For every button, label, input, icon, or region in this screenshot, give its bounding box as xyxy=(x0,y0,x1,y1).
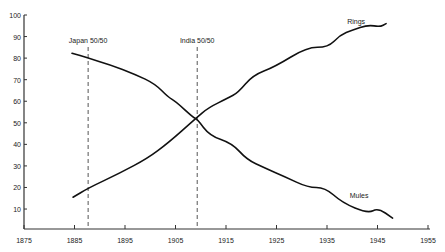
y-tick-label: 30 xyxy=(13,163,21,170)
y-tick-label: 90 xyxy=(13,34,21,41)
y-tick-label: 20 xyxy=(13,184,21,191)
x-tick-label: 1875 xyxy=(16,237,32,244)
x-tick-label: 1905 xyxy=(168,237,184,244)
y-tick-label: 50 xyxy=(13,120,21,127)
annotation-label: India 50/50 xyxy=(180,37,215,44)
series-line-mules xyxy=(72,53,393,218)
y-tick-label: 100 xyxy=(9,12,21,19)
annotation-label: Japan 50/50 xyxy=(69,37,108,45)
x-tick-label: 1895 xyxy=(117,237,133,244)
x-tick-label: 1945 xyxy=(370,237,386,244)
x-tick-label: 1885 xyxy=(67,237,83,244)
series-label-rings: Rings xyxy=(347,18,365,26)
y-tick-label: 10 xyxy=(13,206,21,213)
y-tick-label: 40 xyxy=(13,141,21,148)
series-line-rings xyxy=(73,24,386,198)
series-lines: RingsMules xyxy=(72,18,393,218)
x-tick-label: 1935 xyxy=(319,237,335,244)
series-label-mules: Mules xyxy=(350,192,369,199)
axes: 1020304050607080901001875188518951905191… xyxy=(9,12,436,244)
y-tick-label: 60 xyxy=(13,98,21,105)
annotations: Japan 50/50India 50/50 xyxy=(69,37,215,229)
y-tick-label: 80 xyxy=(13,55,21,62)
y-tick-label: 70 xyxy=(13,77,21,84)
line-chart: 1020304050607080901001875188518951905191… xyxy=(0,0,445,252)
x-tick-label: 1955 xyxy=(420,237,436,244)
x-tick-label: 1915 xyxy=(218,237,234,244)
chart-svg: 1020304050607080901001875188518951905191… xyxy=(0,0,445,252)
x-tick-label: 1925 xyxy=(269,237,285,244)
